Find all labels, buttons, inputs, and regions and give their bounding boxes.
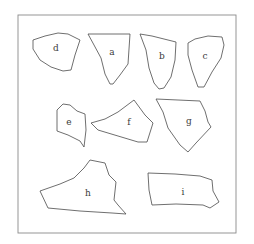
piece-label: b bbox=[159, 51, 165, 61]
pieces-group: d a b c e f g h bbox=[33, 33, 224, 214]
piece-label: g bbox=[186, 116, 192, 126]
piece-outline bbox=[91, 100, 153, 142]
piece-outline bbox=[140, 34, 176, 89]
piece-b: b bbox=[140, 34, 176, 89]
piece-c: c bbox=[188, 36, 224, 87]
piece-outline bbox=[40, 160, 126, 214]
piece-e: e bbox=[57, 104, 86, 147]
piece-label: h bbox=[85, 188, 91, 198]
piece-g: g bbox=[156, 99, 211, 152]
piece-label: a bbox=[109, 47, 115, 57]
piece-label: d bbox=[53, 43, 59, 53]
piece-label: i bbox=[182, 187, 185, 197]
piece-d: d bbox=[33, 33, 80, 71]
piece-f: f bbox=[91, 100, 153, 142]
piece-i: i bbox=[148, 173, 219, 208]
piece-outline bbox=[156, 99, 211, 152]
piece-a: a bbox=[88, 34, 130, 84]
piece-outline bbox=[188, 36, 224, 87]
fragments-diagram: d a b c e f g h bbox=[0, 0, 254, 244]
piece-label: c bbox=[202, 51, 207, 61]
piece-label: e bbox=[66, 117, 71, 127]
piece-outline bbox=[88, 34, 130, 84]
piece-h: h bbox=[40, 160, 126, 214]
